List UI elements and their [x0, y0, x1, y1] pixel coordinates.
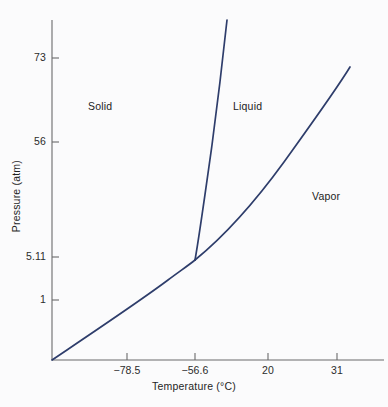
fusion-curve [195, 20, 227, 260]
y-tick-label-5-11: 5.11 [4, 250, 46, 262]
phase-diagram-figure: 73 56 5.11 1 −78.5 −56.6 20 31 Solid Liq… [0, 0, 388, 407]
x-axis-title: Temperature (°C) [0, 380, 388, 392]
region-label-vapor: Vapor [312, 190, 340, 202]
y-tick-marks [52, 58, 59, 300]
x-tick-marks [127, 353, 337, 360]
y-axis-title: Pressure (atm) [10, 160, 22, 232]
sublimation-curve [52, 260, 195, 360]
y-tick-label-56: 56 [10, 135, 46, 147]
x-tick-label-20: 20 [243, 364, 293, 376]
region-label-liquid: Liquid [233, 100, 262, 112]
y-tick-label-1: 1 [10, 293, 46, 305]
x-tick-label-31: 31 [312, 364, 362, 376]
plot-canvas [0, 0, 388, 407]
region-label-solid: Solid [88, 100, 112, 112]
y-tick-label-73: 73 [10, 51, 46, 63]
x-tick-label-minus-56-6: −56.6 [165, 364, 225, 376]
x-tick-label-minus-78-5: −78.5 [97, 364, 157, 376]
